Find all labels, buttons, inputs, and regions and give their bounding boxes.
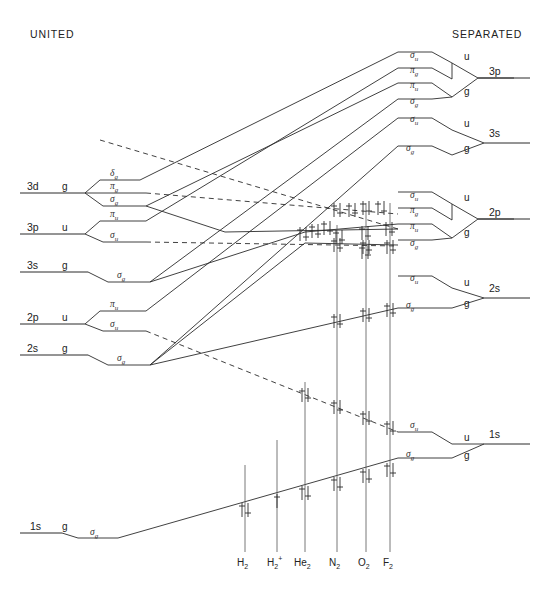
sep-parity-u-3s: u [464,118,470,129]
sep-parity-u-3p: u [464,51,470,62]
sep-atom-3p: 3p [489,65,501,77]
sep-atom-2p: 2p [489,206,501,218]
separated-header: SEPARATED [452,28,522,40]
sep-atom-1s: 1s [489,428,500,440]
sep-parity-g-2s: g [464,298,470,309]
united-parity-2p: u [62,312,68,323]
sep-parity-u-1s: u [464,432,470,443]
united-label-2p: 2p [27,311,39,323]
united-label-3p: 3p [27,221,39,233]
united-parity-3p: u [62,222,68,233]
sep-parity-u-2s: u [464,277,470,288]
united-label-3d: 3d [27,180,39,192]
united-parity-1s: g [62,521,68,532]
sep-parity-u-2p: u [464,192,470,203]
sep-atom-2s: 2s [489,282,500,294]
united-parity-2s: g [62,343,68,354]
sep-parity-g-3s: g [464,143,470,154]
mo-correlation-diagram: UNITED SEPARATED 3d g 3p u 3s g 2p u 2s … [0,0,549,589]
united-header: UNITED [30,28,74,40]
sep-parity-g-1s: g [464,450,470,461]
united-parity-3d: g [62,181,68,192]
sep-parity-g-2p: g [464,227,470,238]
sep-parity-g-3p: g [464,86,470,97]
sep-atom-3s: 3s [489,127,500,139]
united-label-2s: 2s [27,342,38,354]
united-label-1s: 1s [30,520,41,532]
united-label-3s: 3s [27,259,38,271]
united-parity-3s: g [62,260,68,271]
